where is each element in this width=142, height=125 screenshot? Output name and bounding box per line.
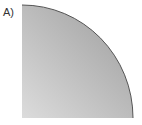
quarter-circle-figure	[0, 0, 142, 125]
quarter-circle-shape	[22, 5, 133, 118]
